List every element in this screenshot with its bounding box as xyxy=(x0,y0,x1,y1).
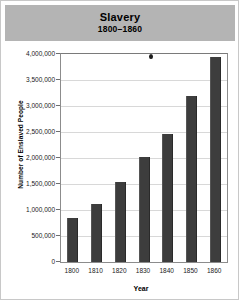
y-axis-tick-label: 3,500,000 xyxy=(3,76,55,83)
x-axis-tick-label: 1860 xyxy=(199,267,229,274)
chart-header-band: Slavery 1800–1860 xyxy=(5,5,235,41)
y-axis-tick-label: 0 xyxy=(3,258,55,265)
plot-area xyxy=(60,53,228,263)
y-axis-tick-label: 3,000,000 xyxy=(3,102,55,109)
bar xyxy=(91,204,102,262)
bar xyxy=(186,96,197,262)
bar xyxy=(115,182,126,262)
y-axis-tick-label: 2,000,000 xyxy=(3,154,55,161)
x-axis-title: Year xyxy=(61,285,221,292)
y-axis-tick-label: 1,500,000 xyxy=(3,180,55,187)
chart-figure: Slavery 1800–1860 Number of Enslaved Peo… xyxy=(0,0,239,300)
ink-speck-icon xyxy=(149,54,153,59)
y-axis-tick-label: 2,500,000 xyxy=(3,128,55,135)
y-axis-title: Number of Enslaved People xyxy=(17,80,24,210)
chart-subtitle: 1800–1860 xyxy=(98,24,142,35)
y-axis-tick-label: 500,000 xyxy=(3,232,55,239)
y-axis-tick-label: 4,000,000 xyxy=(3,50,55,57)
y-axis-tick-label: 1,000,000 xyxy=(3,206,55,213)
gridline xyxy=(61,80,227,81)
bar xyxy=(162,134,173,262)
gridline xyxy=(61,106,227,107)
page-title: Slavery xyxy=(100,11,141,24)
bar xyxy=(139,157,150,262)
bar xyxy=(67,218,78,262)
gridline xyxy=(61,132,227,133)
bar xyxy=(210,57,221,262)
